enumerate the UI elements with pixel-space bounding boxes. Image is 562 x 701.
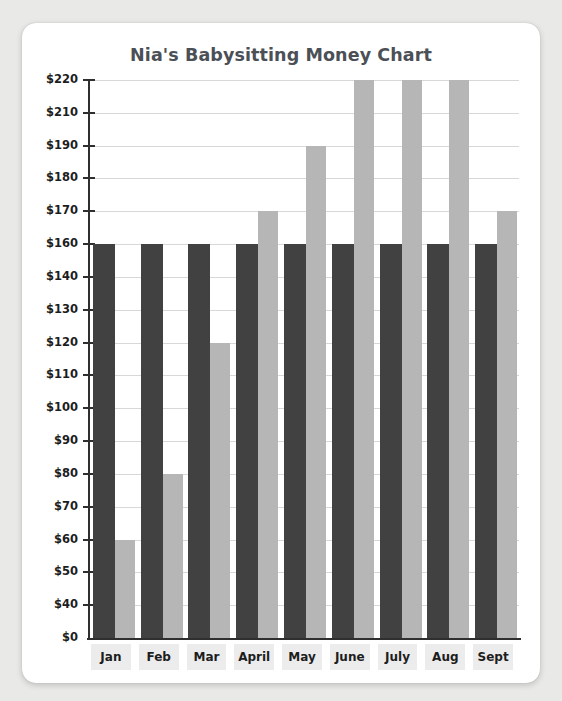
bar-mar-earned[interactable] [210, 343, 230, 638]
page-title: Nia's Babysitting Money Chart [22, 45, 540, 65]
bar-group [475, 80, 517, 638]
plot-area: $220$210$190$180$170$160$140$130$120$110… [89, 80, 519, 638]
bar-group [141, 80, 183, 638]
bar-feb-goal[interactable] [141, 244, 163, 638]
y-tick-label: $220 [46, 72, 78, 86]
y-tick-label: $50 [54, 564, 78, 578]
y-tick-label: $140 [46, 269, 78, 283]
x-axis-label-may: May [282, 644, 322, 670]
y-tick-label: $100 [46, 400, 78, 414]
bar-group [236, 80, 278, 638]
bar-sept-goal[interactable] [475, 244, 497, 638]
y-tick-label: $70 [54, 499, 78, 513]
y-tick-label: $60 [54, 532, 78, 546]
bar-series-container [89, 80, 519, 638]
bar-group [332, 80, 374, 638]
bar-april-earned[interactable] [258, 211, 278, 638]
x-axis-label-april: April [234, 644, 274, 670]
bar-aug-goal[interactable] [427, 244, 449, 638]
bar-feb-earned[interactable] [163, 474, 183, 638]
bar-may-goal[interactable] [284, 244, 306, 638]
y-tick-label: $190 [46, 138, 78, 152]
bar-aug-earned[interactable] [449, 80, 469, 638]
x-axis-label-feb: Feb [139, 644, 179, 670]
y-tick-label: $40 [54, 597, 78, 611]
y-tick-label: $110 [46, 367, 78, 381]
x-axis-label-jan: Jan [91, 644, 131, 670]
y-tick-label: $80 [54, 466, 78, 480]
bar-sept-earned[interactable] [497, 211, 517, 638]
x-axis-label-july: July [378, 644, 418, 670]
x-axis-label-sept: Sept [473, 644, 513, 670]
bar-june-earned[interactable] [354, 80, 374, 638]
x-axis-line [87, 638, 521, 640]
chart-card: Nia's Babysitting Money Chart $220$210$1… [22, 23, 540, 683]
y-tick-label: $160 [46, 236, 78, 250]
y-tick-label: $0 [62, 630, 78, 644]
y-tick-label: $170 [46, 203, 78, 217]
x-axis-label-mar: Mar [187, 644, 227, 670]
bar-may-earned[interactable] [306, 146, 326, 638]
bar-group [284, 80, 326, 638]
y-tick-label: $210 [46, 105, 78, 119]
y-tick-label: $180 [46, 170, 78, 184]
bar-group [93, 80, 135, 638]
bar-jan-goal[interactable] [93, 244, 115, 638]
y-tick-label: $90 [54, 433, 78, 447]
bar-group [380, 80, 422, 638]
bar-july-goal[interactable] [380, 244, 402, 638]
x-axis-labels: JanFebMarAprilMayJuneJulyAugSept [89, 644, 519, 674]
bar-jan-earned[interactable] [115, 540, 135, 638]
x-axis-label-aug: Aug [425, 644, 465, 670]
y-tick-label: $130 [46, 302, 78, 316]
bar-july-earned[interactable] [402, 80, 422, 638]
bar-june-goal[interactable] [332, 244, 354, 638]
bar-group [427, 80, 469, 638]
bar-mar-goal[interactable] [188, 244, 210, 638]
y-tick-label: $120 [46, 335, 78, 349]
bar-april-goal[interactable] [236, 244, 258, 638]
bar-group [188, 80, 230, 638]
x-axis-label-june: June [330, 644, 370, 670]
